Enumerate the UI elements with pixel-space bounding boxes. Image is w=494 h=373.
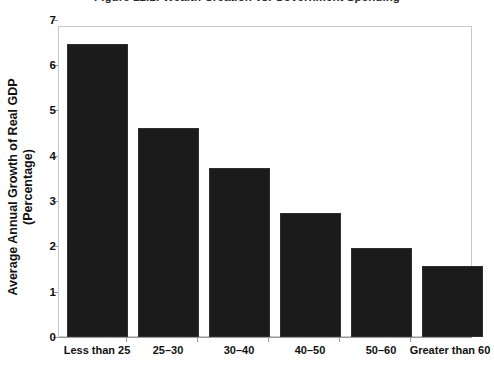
x-label-5: Greater than 60 — [410, 344, 491, 356]
bar-1 — [138, 128, 199, 337]
y-tick-label-3: 3 — [0, 195, 56, 207]
y-tick-label-5: 5 — [0, 104, 56, 116]
x-label-3: 40–50 — [295, 344, 326, 356]
bar-2 — [209, 168, 270, 337]
y-axis-title: Average Annual Growth of Real GDP (Perce… — [6, 27, 36, 347]
y-tick-label-4: 4 — [0, 150, 56, 162]
bar-3 — [280, 213, 341, 337]
x-tick-mark-2 — [268, 337, 269, 342]
x-label-0: Less than 25 — [64, 344, 131, 356]
y-tick-label-0: 0 — [0, 331, 56, 343]
bar-series — [58, 26, 472, 337]
x-tick-mark-1 — [197, 337, 198, 342]
y-axis-title-line-2: (Percentage) — [21, 27, 36, 347]
bar-5 — [422, 266, 483, 337]
chart-title: Figure 12.1: Wealth Creation vs. Governm… — [0, 0, 494, 7]
x-label-2: 30–40 — [224, 344, 255, 356]
x-label-4: 50–60 — [366, 344, 397, 356]
y-tick-label-2: 2 — [0, 240, 56, 252]
x-label-1: 25–30 — [153, 344, 184, 356]
bar-4 — [351, 248, 412, 337]
y-tick-label-7: 7 — [0, 14, 56, 26]
y-tick-label-6: 6 — [0, 59, 56, 71]
x-tick-mark-3 — [339, 337, 340, 342]
x-tick-mark-4 — [410, 337, 411, 342]
y-tick-label-1: 1 — [0, 286, 56, 298]
bar-0 — [67, 44, 128, 337]
x-tick-mark-0 — [126, 337, 127, 342]
